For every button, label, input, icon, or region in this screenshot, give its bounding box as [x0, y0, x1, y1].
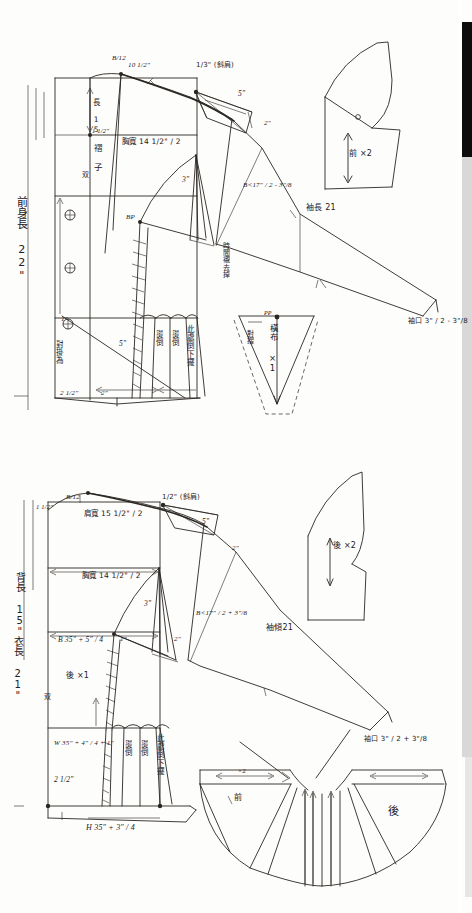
back-garment-length-label: 衣長 21"	[12, 636, 22, 701]
front-chest-width-label: 胸寬 14 1/2" / 2	[122, 138, 181, 146]
front-facing-grain-label: 前 ×2	[349, 150, 372, 158]
front-lap-note: 對掛為	[55, 340, 63, 365]
back-pleat-press-1: 燙倒	[124, 740, 132, 756]
back-dart-one-label: 1"	[120, 636, 127, 643]
back-double-note: 双	[44, 694, 51, 701]
bias-piece-fold-note: 對摺	[246, 330, 253, 344]
front-pleat-five-label: 5"	[119, 340, 126, 348]
back-bust-formula-label: B<17" / 2 + 3"/8	[196, 610, 247, 617]
front-hem-one-label: 1"	[61, 316, 68, 323]
front-waist-right-label: 2"	[101, 390, 108, 397]
back-chest-width-label: 胸寬 14 1/2" / 2	[82, 572, 141, 580]
bias-piece-notch-label: PP	[264, 310, 272, 316]
front-double-note: 双	[82, 172, 89, 179]
collar-back-label: 後	[388, 806, 399, 817]
back-cuff-formula-label: 袖口 3" / 2 + 3"/8	[364, 736, 427, 743]
front-waist-left-label: 2 1/2"	[60, 390, 78, 397]
front-neck-depth-label: 1 1/2"	[92, 128, 109, 135]
back-shoulder-drop-label: 1/2" (斜肩)	[162, 494, 200, 501]
front-shoulder-drop-label: 1/3" (斜肩)	[196, 62, 234, 69]
back-dart-two-label: 2"	[174, 636, 181, 643]
flared-collar-shape	[200, 730, 446, 886]
back-armhole-notch-label: 2"	[232, 545, 239, 552]
scanner-edge-white	[458, 0, 462, 913]
scanner-edge-grey-lower	[465, 757, 472, 897]
back-pleat-press-2: 燙倒	[140, 740, 148, 756]
front-interfacing-note: 時間襯去掉	[222, 242, 229, 278]
front-pleat-press-3: 此處倒下擺	[186, 325, 194, 366]
back-shoulder-slope-formula: B/12	[66, 494, 80, 501]
back-facing-grain-label: 後 ×2	[333, 542, 356, 550]
front-draft-group	[14, 72, 438, 410]
back-neck-rise-label: 1 1/2"	[36, 504, 53, 511]
front-shoulder-length-label: 5"	[238, 90, 245, 98]
collar-grain-label: ×2	[238, 768, 246, 775]
scanner-edge-dark	[462, 22, 472, 157]
front-armhole-notch-label: 2"	[264, 120, 271, 127]
bias-piece-label: 橫布 ×1	[268, 324, 277, 373]
back-waist-left-label: 2 1/2"	[54, 776, 74, 784]
front-sleeve-length-label: 袖長 21	[306, 204, 336, 212]
scanner-edge-grey	[462, 157, 472, 757]
front-fold-note: 褶 子	[92, 144, 101, 173]
front-dart-three-label: 3"	[182, 176, 189, 184]
collar-front-label: 前	[234, 794, 242, 802]
back-sleeve-length-label: 袖傾21	[266, 624, 293, 632]
front-pleat-press-2: 燙倒	[171, 330, 179, 346]
front-cuff-formula-label: 袖口 3" / 2 - 3"/8	[408, 318, 468, 325]
front-bust-formula-label: B<17" / 2 - 3"/8	[243, 182, 292, 189]
back-shoulder-length-label: 5"	[202, 518, 209, 526]
pattern-sheet-page: .ln{fill:none;stroke:#2a2622;stroke-widt…	[0, 0, 472, 913]
back-shoulder-width-label: 肩寬 15 1/2" / 2	[84, 510, 143, 518]
front-body-length-label: 前身長 22"	[16, 196, 27, 282]
front-shoulder-slope-formula: B/12	[112, 55, 126, 62]
front-pleat-press-1: 燙倒	[155, 330, 163, 346]
back-dart-three-label: 3"	[144, 600, 151, 608]
back-bust-quarter-label: B 35" + 5" / 4	[58, 636, 103, 644]
back-piece-note: 後 ×1	[66, 672, 89, 680]
back-hip-formula-label: H 35" + 3" / 4	[86, 824, 135, 832]
back-length-label: 背長 15"	[14, 572, 24, 637]
back-pleat-press-3: 此處倒下擺	[156, 734, 164, 775]
back-waist-formula-label: W 35" + 4" / 4 + 1"	[54, 740, 114, 747]
front-neck-width-label: 10 1/2"	[128, 62, 150, 69]
front-bp-point-label: BP	[126, 214, 135, 221]
front-facing-shape	[325, 42, 400, 189]
